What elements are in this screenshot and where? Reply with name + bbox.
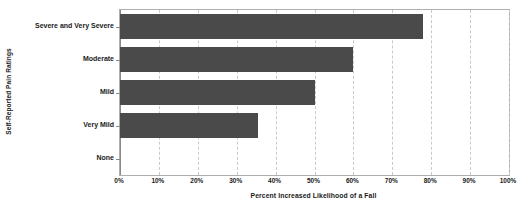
bar	[120, 14, 423, 39]
plot-area	[119, 9, 510, 176]
category-axis-labels: Severe and Very SevereModerateMildVery M…	[14, 9, 114, 174]
x-axis-title: Percent Increased Likelihood of a Fall	[119, 192, 508, 199]
category-tick	[116, 60, 120, 61]
x-tick-label-70: 70%	[371, 177, 411, 184]
category-label-very-mild: Very Mild	[14, 121, 114, 128]
bar-row	[120, 109, 509, 142]
category-tick	[116, 93, 120, 94]
bar	[120, 80, 315, 105]
x-tick-label-10: 10%	[138, 177, 178, 184]
x-tick-label-90: 90%	[449, 177, 489, 184]
x-tick-label-20: 20%	[177, 177, 217, 184]
category-tick	[116, 159, 120, 160]
category-label-moderate: Moderate	[14, 55, 114, 62]
category-tick	[116, 126, 120, 127]
x-tick-label-60: 60%	[332, 177, 372, 184]
x-tick-label-30: 30%	[216, 177, 256, 184]
x-axis-tick-labels: 0%10%20%30%40%50%60%70%80%90%100%	[119, 177, 508, 189]
bar	[120, 47, 353, 72]
x-tick-label-40: 40%	[255, 177, 295, 184]
y-axis-title: Self-Reported Pain Ratings	[5, 7, 12, 177]
category-label-none: None	[14, 154, 114, 161]
category-label-mild: Mild	[14, 88, 114, 95]
bar	[120, 113, 258, 138]
bar-row	[120, 76, 509, 109]
x-tick-label-100: 100%	[488, 177, 522, 184]
gridline-100	[509, 10, 510, 175]
category-tick	[116, 27, 120, 28]
x-tick-label-80: 80%	[410, 177, 450, 184]
x-tick-label-0: 0%	[99, 177, 139, 184]
category-label-severe-and-very-severe: Severe and Very Severe	[14, 22, 114, 29]
x-tick-label-50: 50%	[294, 177, 334, 184]
bar-row	[120, 43, 509, 76]
bar-chart: Self-Reported Pain Ratings Severe and Ve…	[0, 0, 522, 208]
bar-row	[120, 142, 509, 175]
bar-row	[120, 10, 509, 43]
bar-series	[120, 10, 509, 175]
